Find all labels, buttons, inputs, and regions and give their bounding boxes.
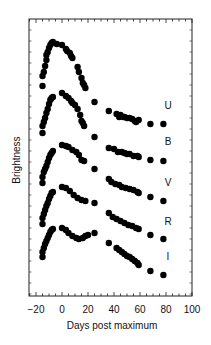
- data-point: [82, 85, 88, 91]
- data-point: [91, 134, 97, 140]
- series-r: [39, 184, 166, 242]
- band-label-i: I: [167, 251, 170, 262]
- data-point: [42, 63, 48, 69]
- series-v: [39, 142, 166, 204]
- y-axis-title: Brightness: [11, 136, 22, 183]
- data-point: [136, 262, 142, 268]
- data-point: [147, 121, 153, 127]
- data-point: [136, 190, 142, 196]
- data-point: [74, 106, 80, 112]
- data-point: [160, 198, 166, 204]
- band-label-v: V: [165, 177, 172, 188]
- data-point: [136, 154, 142, 160]
- x-tick-label: 100: [184, 304, 201, 315]
- data-point: [50, 94, 56, 100]
- data-point: [50, 148, 56, 154]
- data-point: [147, 268, 153, 274]
- data-points: [39, 39, 166, 278]
- data-point: [136, 226, 142, 232]
- data-point: [82, 198, 88, 204]
- data-point: [69, 55, 75, 61]
- x-tick-label: 0: [59, 304, 65, 315]
- data-point: [136, 117, 142, 123]
- x-tick-label: 60: [134, 304, 146, 315]
- data-point: [77, 112, 83, 118]
- data-point: [50, 226, 56, 232]
- data-point: [81, 158, 87, 164]
- band-label-b: B: [165, 136, 172, 147]
- x-tick-label: −20: [28, 304, 45, 315]
- band-label-u: U: [164, 100, 171, 111]
- data-point: [160, 121, 166, 127]
- data-point: [39, 130, 45, 136]
- band-label-r: R: [164, 216, 171, 227]
- x-tick-label: 80: [160, 304, 172, 315]
- data-point: [147, 232, 153, 238]
- data-point: [91, 99, 97, 105]
- data-point: [91, 230, 97, 236]
- data-point: [76, 69, 82, 75]
- data-point: [50, 189, 56, 195]
- data-point: [41, 69, 47, 75]
- series-u: [39, 39, 166, 127]
- data-point: [147, 157, 153, 163]
- data-point: [160, 236, 166, 242]
- data-point: [39, 180, 45, 186]
- x-axis-title: Days post maximum: [67, 320, 158, 331]
- data-point: [160, 272, 166, 278]
- x-tick-label: 20: [82, 304, 94, 315]
- data-point: [81, 123, 87, 129]
- data-point: [85, 232, 91, 238]
- x-tick-label: 40: [108, 304, 120, 315]
- data-point: [91, 166, 97, 172]
- data-point: [39, 221, 45, 227]
- light-curve-chart: −20020406080100 UBVRI Days post maximum …: [0, 0, 211, 345]
- data-point: [147, 194, 153, 200]
- series-b: [39, 90, 166, 164]
- series-i: [39, 225, 166, 278]
- data-point: [106, 240, 112, 246]
- data-point: [39, 83, 45, 89]
- data-point: [106, 108, 112, 114]
- data-point: [91, 200, 97, 206]
- x-tick-labels: −20020406080100: [28, 304, 201, 315]
- data-point: [160, 158, 166, 164]
